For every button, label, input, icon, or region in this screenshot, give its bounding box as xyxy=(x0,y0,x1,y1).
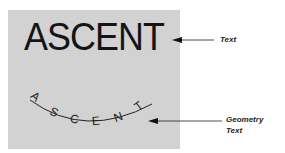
text-label: Text xyxy=(220,35,236,45)
text-arrowhead-icon xyxy=(172,37,182,43)
arc-letter-n: N xyxy=(112,109,125,125)
geometry-arrowhead-icon xyxy=(148,118,158,124)
geometry-text-label-line2: Text xyxy=(226,126,242,136)
arc-letter-e: E xyxy=(91,114,100,129)
geometry-text-letters: A S C E N T xyxy=(28,89,147,129)
arc-letter-a: A xyxy=(28,89,43,105)
arc-letter-t: T xyxy=(132,98,147,114)
diagram-graphics: A S C E N T xyxy=(0,0,285,153)
arc-letter-c: C xyxy=(69,111,80,126)
geometry-text-label-line1: Geometry xyxy=(226,115,263,125)
arc-letter-s: S xyxy=(47,104,60,120)
